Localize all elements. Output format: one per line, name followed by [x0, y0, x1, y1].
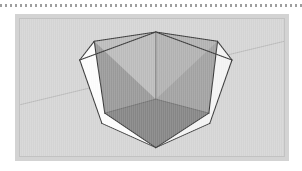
- page-root: [0, 0, 302, 171]
- viewport-frame[interactable]: [19, 18, 285, 157]
- dotted-separator-rule: [0, 3, 302, 7]
- scene-canvas[interactable]: [20, 19, 284, 156]
- figure-panel: [15, 14, 289, 161]
